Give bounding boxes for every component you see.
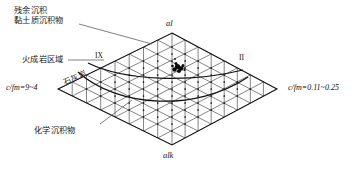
upper-boundary-curve	[88, 63, 243, 78]
axis-label-cfm-right: c/fm=0.11~0.25	[288, 83, 339, 92]
annotation-residual-line2: 黏土质沉积物	[14, 16, 64, 26]
region-marker-ii: II	[239, 54, 244, 63]
sample-cluster	[171, 58, 185, 73]
annotation-residual-sediment: 残余沉积 黏土质沉积物	[14, 6, 64, 25]
apex-label-al: al	[166, 18, 173, 28]
lower-boundary-curve	[78, 72, 248, 101]
annotation-igneous-area: 火成岩区域	[22, 55, 64, 65]
grid-mesh	[58, 33, 277, 145]
rhombus-outline	[58, 33, 277, 145]
apex-label-alk: alk	[163, 150, 173, 160]
leader-residual	[79, 24, 152, 44]
region-marker-ix: IX	[95, 52, 103, 61]
figure-canvas: 残余沉积 黏土质沉积物 火成岩区域 化学沉积物 石灰岩 c/fm=9~4 c/f…	[0, 0, 355, 171]
axis-label-cfm-left: c/fm=9~4	[6, 83, 38, 92]
annotation-chemical-sediment: 化学沉积物	[34, 126, 76, 136]
